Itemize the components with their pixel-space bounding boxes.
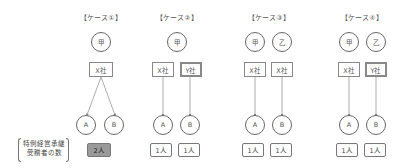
case-2-donor-kou: 甲 [167, 32, 187, 52]
case-3-company-x-2: X社 [271, 62, 293, 77]
row-label-line1: 特例経営承継 [22, 140, 66, 149]
case-1-count: 2人 [87, 143, 111, 157]
case-2-recipient-b: B [180, 115, 200, 135]
row-label: 特例経営承継 受贈者の数 [22, 140, 66, 158]
case-2-company-y: Y社 [180, 62, 202, 77]
case-4-donor-kou: 甲 [339, 32, 359, 52]
case-1-recipient-b: B [104, 115, 124, 135]
case-4-donor-otsu: 乙 [366, 32, 386, 52]
case-3-recipient-b: B [272, 115, 292, 135]
case-4-recipient-b: B [366, 115, 386, 135]
case-1-title: 【ケース①】 [80, 12, 121, 22]
case-3-donor-otsu: 乙 [272, 32, 292, 52]
case-2-count-b: 1人 [178, 143, 200, 157]
case-1-company-x: X社 [89, 62, 113, 77]
case-3-company-x-1: X社 [244, 62, 266, 77]
case-3-count-b: 1人 [270, 143, 292, 157]
case-3-donor-kou: 甲 [245, 32, 265, 52]
row-label-line2: 受贈者の数 [22, 149, 66, 158]
case-1-recipient-a: A [76, 115, 96, 135]
case-1-donor-kou: 甲 [91, 32, 111, 52]
left-bracket [18, 138, 21, 162]
case-4-recipient-a: A [339, 115, 359, 135]
case-3-title: 【ケース③】 [248, 12, 289, 22]
case-2-title: 【ケース②】 [156, 12, 197, 22]
case-4-count-a: 1人 [336, 143, 358, 157]
case-4-count-b: 1人 [364, 143, 386, 157]
case-4-title: 【ケース④】 [341, 12, 382, 22]
case-2-recipient-a: A [153, 115, 173, 135]
case-3-recipient-a: A [245, 115, 265, 135]
case-4-company-x: X社 [338, 62, 360, 77]
case-4-company-y: Y社 [365, 62, 387, 77]
case-3-count-a: 1人 [242, 143, 264, 157]
right-bracket [66, 138, 69, 162]
case-2-company-x: X社 [152, 62, 174, 77]
case-2-count-a: 1人 [150, 143, 172, 157]
